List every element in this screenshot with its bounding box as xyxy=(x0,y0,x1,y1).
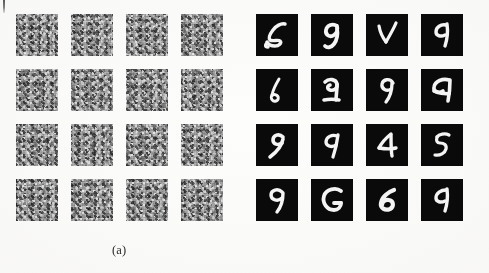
digit-tile xyxy=(256,69,298,111)
noise-tile xyxy=(71,69,113,111)
noise-tile xyxy=(71,124,113,166)
panel-b: (b) xyxy=(245,0,489,273)
noise-tile xyxy=(16,124,58,166)
digit-tile xyxy=(366,69,408,111)
noise-tile xyxy=(71,179,113,221)
noise-tile xyxy=(16,179,58,221)
noise-tile xyxy=(181,14,223,56)
figure-container: (a) xyxy=(0,0,489,273)
noise-tile xyxy=(126,14,168,56)
digit-tile xyxy=(366,124,408,166)
digit-tile xyxy=(256,14,298,56)
noise-tile xyxy=(181,69,223,111)
noise-tile xyxy=(126,69,168,111)
noise-patch-grid xyxy=(16,14,223,221)
digit-grid xyxy=(256,14,463,221)
digit-tile xyxy=(311,124,353,166)
digit-tile xyxy=(311,69,353,111)
noise-tile xyxy=(181,179,223,221)
noise-tile xyxy=(181,124,223,166)
digit-tile xyxy=(421,179,463,221)
digit-tile xyxy=(421,69,463,111)
digit-tile xyxy=(256,124,298,166)
panel-a-caption: (a) xyxy=(112,243,126,258)
digit-tile xyxy=(311,179,353,221)
panel-a: (a) xyxy=(0,0,245,273)
noise-tile xyxy=(126,124,168,166)
digit-tile xyxy=(311,14,353,56)
noise-tile xyxy=(16,14,58,56)
digit-tile xyxy=(421,124,463,166)
noise-tile xyxy=(126,179,168,221)
noise-tile xyxy=(71,14,113,56)
digit-tile xyxy=(256,179,298,221)
digit-tile xyxy=(421,14,463,56)
digit-tile xyxy=(366,14,408,56)
digit-tile xyxy=(366,179,408,221)
noise-tile xyxy=(16,69,58,111)
